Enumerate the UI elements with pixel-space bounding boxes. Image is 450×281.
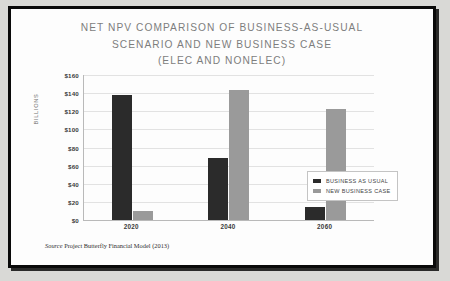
y-tick-label: $0 [72,217,79,224]
bar-group [208,75,249,220]
x-axis-tick-labels: 202020402060 [83,223,373,230]
x-tick-label: 2060 [303,223,346,230]
y-tick-label: $100 [64,126,79,133]
picture-frame: NET NPV COMPARISON OF BUSINESS-AS-USUAL … [8,6,436,268]
y-axis-title: BILLIONS [33,79,39,139]
source-note-prefix: Source [45,242,63,249]
legend-label-new-business-case: NEW BUSINESS CASE [326,188,391,194]
chart-title: NET NPV COMPARISON OF BUSINESS-AS-USUAL … [11,20,433,70]
y-axis-tick-labels: $160$140$120$100$80$60$40$20$0 [43,75,79,220]
legend-swatch-new-business-case [313,189,321,193]
plot-region: BILLIONS $160$140$120$100$80$60$40$20$0 … [11,75,433,235]
y-tick-label: $20 [68,198,79,205]
chart-canvas: NET NPV COMPARISON OF BUSINESS-AS-USUAL … [11,9,433,265]
bar[interactable] [305,207,325,220]
chart-title-line-1: NET NPV COMPARISON OF BUSINESS-AS-USUAL [11,20,433,37]
y-tick-label: $160 [64,72,79,79]
bar[interactable] [229,90,249,221]
legend-swatch-business-as-usual [313,179,321,183]
chart-title-line-2: SCENARIO AND NEW BUSINESS CASE [11,37,433,54]
bar[interactable] [208,158,228,220]
chart-legend: BUSINESS AS USUAL NEW BUSINESS CASE [307,171,398,201]
legend-item[interactable]: BUSINESS AS USUAL [313,176,391,186]
y-tick-label: $40 [68,180,79,187]
x-tick-label: 2040 [206,223,249,230]
y-tick-label: $80 [68,144,79,151]
x-tick-label: 2020 [110,223,153,230]
bar[interactable] [133,211,153,220]
bar[interactable] [112,95,132,220]
bar-group [112,75,153,220]
y-tick-label: $60 [68,162,79,169]
legend-label-business-as-usual: BUSINESS AS USUAL [326,178,388,184]
bar[interactable] [326,109,346,220]
source-note: Source Project Butterfly Financial Model… [45,242,169,249]
y-tick-label: $120 [64,108,79,115]
chart-title-line-3: (ELEC AND NONELEC) [11,53,433,70]
y-tick-label: $140 [64,90,79,97]
source-note-text: Project Butterfly Financial Model (2013) [64,242,169,249]
legend-item[interactable]: NEW BUSINESS CASE [313,186,391,196]
